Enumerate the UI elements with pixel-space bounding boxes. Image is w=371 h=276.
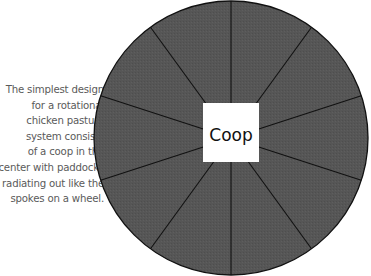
paddock-wheel-diagram: Coop (0, 0, 371, 276)
coop-label: Coop (209, 125, 252, 145)
